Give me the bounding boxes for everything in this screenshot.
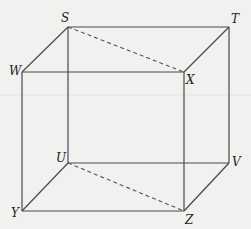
vertex-label-X: X [186,74,195,86]
vertex-label-S: S [61,12,69,24]
dashed-diagonal-UZ [68,163,184,211]
edge-VZ [184,163,229,211]
dashed-diagonal-SX [68,27,184,72]
vertex-label-Z: Z [185,214,193,226]
vertex-label-U: U [56,152,66,164]
vertex-label-T: T [231,13,239,25]
edge-SW [22,27,68,72]
vertex-label-V: V [232,156,241,168]
cube-drawing [0,0,251,229]
edge-UY [22,163,68,211]
vertex-label-W: W [9,65,21,77]
edge-TX [184,27,229,72]
cube-diagram: S T W X U V Y Z [0,0,251,229]
vertex-label-Y: Y [11,207,19,219]
